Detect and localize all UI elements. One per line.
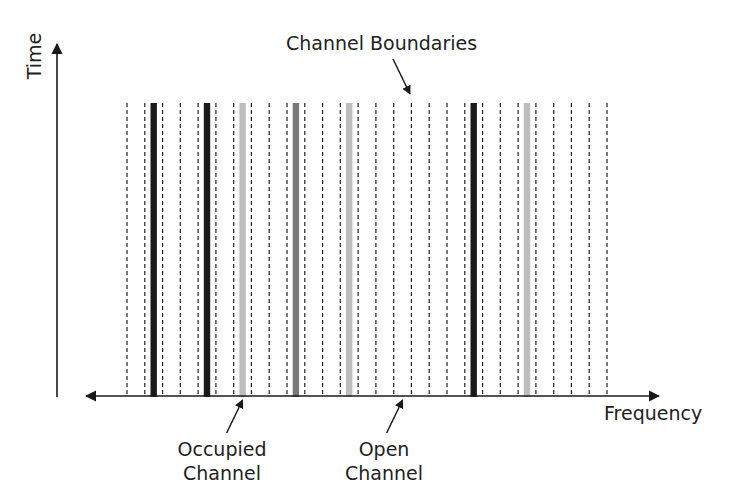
channel-boundaries-arrow xyxy=(393,59,410,94)
open-channel-arrow xyxy=(387,400,403,433)
time-axis-label: Time xyxy=(23,33,45,81)
spectrum-diagram: Time Frequency Channel Boundaries Occupi… xyxy=(0,0,729,500)
occupied-channel-label-line1: Occupied xyxy=(178,438,267,460)
channel-boundaries-label: Channel Boundaries xyxy=(286,32,477,54)
occupied-channel-bar-22 xyxy=(524,103,530,397)
open-channel-label-line1: Open xyxy=(359,438,410,460)
frequency-axis-label: Frequency xyxy=(604,402,702,424)
occupied-channel-bar-9 xyxy=(293,103,299,397)
open-channel-label-line2: Channel xyxy=(345,462,423,484)
occupied-channel-bar-6 xyxy=(239,103,245,397)
occupied-channel-arrow xyxy=(227,400,243,433)
occupied-channel-bar-1 xyxy=(151,103,157,397)
occupied-channel-bar-12 xyxy=(346,103,352,397)
occupied-channel-label-line2: Channel xyxy=(183,462,261,484)
occupied-channel-bar-4 xyxy=(204,103,210,397)
occupied-channel-bar-19 xyxy=(471,103,477,397)
channel-grid xyxy=(127,103,607,397)
